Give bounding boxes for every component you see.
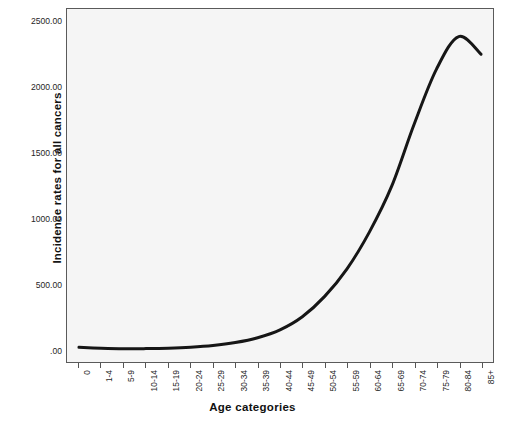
x-tick-label: 0 bbox=[82, 370, 92, 375]
x-tick-mark bbox=[325, 363, 326, 368]
x-tick-mark bbox=[280, 363, 281, 368]
series-line-path bbox=[79, 36, 481, 348]
x-tick-mark bbox=[168, 363, 169, 368]
x-tick-mark bbox=[392, 363, 393, 368]
chart-figure: Incidence rates for all cancers .00500.0… bbox=[0, 0, 505, 422]
x-tick-mark bbox=[258, 363, 259, 368]
x-tick-label: 40-44 bbox=[284, 370, 294, 391]
x-tick-label: 30-34 bbox=[239, 370, 249, 391]
x-tick-label: 70-74 bbox=[418, 370, 428, 391]
x-tick-mark bbox=[213, 363, 214, 368]
x-tick-label: 45-49 bbox=[306, 370, 316, 391]
x-tick-label: 1-4 bbox=[104, 370, 114, 382]
x-tick-label: 65-69 bbox=[396, 370, 406, 391]
x-tick-mark bbox=[123, 363, 124, 368]
x-tick-mark bbox=[78, 363, 79, 368]
x-tick-mark bbox=[190, 363, 191, 368]
y-tick-label: 2000.00 bbox=[14, 82, 62, 92]
x-tick-label: 10-14 bbox=[149, 370, 159, 391]
y-tick-label: 2500.00 bbox=[14, 16, 62, 26]
y-tick-label: 1500.00 bbox=[14, 148, 62, 158]
x-tick-mark bbox=[370, 363, 371, 368]
x-tick-label: 35-39 bbox=[261, 370, 271, 391]
y-tick-label: .00 bbox=[14, 346, 62, 356]
x-tick-mark bbox=[100, 363, 101, 368]
x-tick-mark bbox=[145, 363, 146, 368]
x-tick-label: 15-19 bbox=[171, 370, 181, 391]
x-tick-mark bbox=[437, 363, 438, 368]
x-tick-label: 25-29 bbox=[216, 370, 226, 391]
x-tick-mark bbox=[460, 363, 461, 368]
x-tick-mark bbox=[415, 363, 416, 368]
x-tick-mark bbox=[347, 363, 348, 368]
x-tick-label: 80-84 bbox=[463, 370, 473, 391]
x-tick-label: 55-59 bbox=[351, 370, 361, 391]
x-tick-label: 75-79 bbox=[441, 370, 451, 391]
x-tick-label: 85+ bbox=[486, 370, 496, 384]
x-tick-label: 20-24 bbox=[194, 370, 204, 391]
x-axis-title: Age categories bbox=[0, 401, 505, 413]
y-tick-label: 1000.00 bbox=[14, 214, 62, 224]
y-tick-label: 500.00 bbox=[14, 280, 62, 290]
x-tick-mark bbox=[235, 363, 236, 368]
x-tick-label: 5-9 bbox=[126, 370, 136, 382]
y-axis-ticks: .00500.001000.001500.002000.002500.00 bbox=[14, 8, 62, 363]
x-tick-label: 50-54 bbox=[328, 370, 338, 391]
incidence-line-series bbox=[67, 9, 493, 362]
x-tick-mark bbox=[302, 363, 303, 368]
plot-inner bbox=[67, 9, 493, 362]
x-tick-label: 60-64 bbox=[373, 370, 383, 391]
plot-area bbox=[66, 8, 494, 363]
x-tick-mark bbox=[482, 363, 483, 368]
